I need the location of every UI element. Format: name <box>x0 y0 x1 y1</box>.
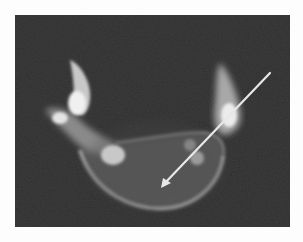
figure-frame <box>0 0 303 242</box>
soft-tissue-glow <box>85 120 225 210</box>
ct-scan-image <box>15 15 290 227</box>
